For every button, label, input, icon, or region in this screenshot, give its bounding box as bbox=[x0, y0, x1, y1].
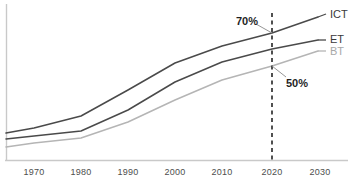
x-tick-2020: 2020 bbox=[262, 167, 283, 177]
chart-container: 1970 1980 1990 2000 2010 2020 2030 ICT E… bbox=[0, 0, 355, 187]
x-tick-1990: 1990 bbox=[118, 167, 139, 177]
legend-leader-ict bbox=[318, 14, 326, 17]
series-label-bt: BT bbox=[330, 45, 344, 57]
annotation-leader-50 bbox=[272, 66, 286, 77]
x-tick-1980: 1980 bbox=[71, 167, 92, 177]
x-tick-2010: 2010 bbox=[212, 167, 233, 177]
annotation-leader-70 bbox=[256, 24, 272, 33]
x-tick-1970: 1970 bbox=[24, 167, 45, 177]
chart-canvas bbox=[0, 0, 355, 187]
annotation-50-percent: 50% bbox=[286, 77, 308, 89]
series-label-ict: ICT bbox=[330, 8, 348, 20]
x-tick-2000: 2000 bbox=[165, 167, 186, 177]
series-label-et: ET bbox=[330, 33, 344, 45]
x-tick-2030: 2030 bbox=[310, 167, 331, 177]
annotation-70-percent: 70% bbox=[236, 15, 258, 27]
